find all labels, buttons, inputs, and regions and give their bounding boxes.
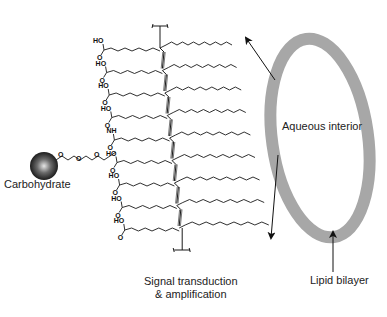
alkyl-tail — [170, 132, 251, 138]
acyl-chain — [107, 71, 163, 74]
diagram-canvas: HOOHOOHOOHOONHOHOOHOOHOOHOOOOO Carbohydr… — [0, 0, 387, 317]
hydroxyl-label: HO — [101, 105, 112, 112]
hydroxyl-label: HO — [106, 150, 117, 157]
alkyl-tail — [160, 42, 232, 48]
acyl-chain — [117, 161, 172, 164]
alkyl-tail — [179, 222, 269, 228]
carbonyl-oxygen-label: O — [118, 234, 123, 241]
alkyl-tail — [165, 87, 241, 93]
aqueous-interior-label: Aqueous interior — [282, 120, 362, 133]
ether-oxygen-label: O — [76, 155, 81, 162]
hydroxyl-label: HO — [93, 37, 104, 44]
insertion-arrow-up — [246, 38, 275, 80]
hydroxyl-label: HO — [96, 60, 107, 67]
alkyl-tail — [172, 155, 255, 161]
acyl-chain — [109, 93, 165, 96]
hydroxyl-label: HO — [111, 195, 122, 202]
alkyl-tail — [167, 110, 246, 116]
amide-nh-label: NH — [106, 127, 116, 134]
acyl-chain — [125, 228, 179, 231]
lipid-chains — [101, 42, 269, 235]
diagram-svg — [0, 0, 387, 317]
carbohydrate-label: Carbohydrate — [4, 178, 71, 191]
acyl-chain — [120, 183, 175, 186]
ether-oxygen-label: O — [94, 151, 99, 158]
alkyl-tail — [174, 177, 259, 183]
acyl-chain — [114, 138, 169, 141]
acyl-chain — [104, 48, 160, 51]
hydroxyl-label: HO — [109, 172, 120, 179]
hydroxyl-label: HO — [114, 217, 125, 224]
carbohydrate-sphere — [30, 152, 58, 180]
alkyl-tail — [177, 200, 264, 206]
lipid-bilayer-label: Lipid bilayer — [310, 274, 369, 287]
hydroxyl-label: HO — [98, 82, 109, 89]
acyl-chain — [122, 206, 177, 209]
acyl-chain — [112, 116, 167, 119]
vesicle-membrane — [259, 32, 382, 243]
signal-transduction-label: Signal transduction & amplification — [144, 275, 238, 301]
signal-line-2: & amplification — [144, 288, 238, 301]
ether-oxygen-label: O — [58, 151, 63, 158]
alkyl-tail — [162, 65, 236, 71]
signal-line-1: Signal transduction — [144, 275, 238, 288]
polymer-backbone — [152, 24, 190, 252]
